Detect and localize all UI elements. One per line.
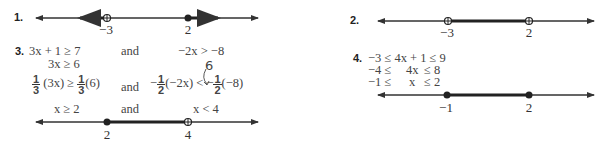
tick-label: −3 bbox=[432, 25, 462, 41]
step-line: x bbox=[409, 75, 415, 90]
problem-number-2: 2. bbox=[350, 14, 359, 26]
connector: and bbox=[121, 102, 139, 117]
number-line-3 bbox=[36, 119, 258, 126]
problem-number-3: 3. bbox=[15, 45, 24, 57]
tick-label: 2 bbox=[514, 100, 544, 116]
step-line: 3x ≥ 6 bbox=[48, 57, 80, 72]
problem-number-4: 4. bbox=[353, 52, 362, 64]
tick-label: 4 bbox=[173, 127, 203, 142]
handwritten-note: 6 bbox=[205, 58, 213, 73]
step-line: −1 ≤ bbox=[368, 75, 391, 90]
step-line: x < 4 bbox=[193, 102, 219, 117]
number-line-4 bbox=[378, 92, 594, 99]
tick-label: 2 bbox=[92, 127, 122, 142]
step-line: ≤ 2 bbox=[424, 75, 440, 90]
fraction-step-right: −12(−2x) < −12(−8) bbox=[150, 74, 243, 95]
tick-label: −1 bbox=[431, 100, 461, 116]
connector: and bbox=[121, 80, 139, 95]
tick-label: 2 bbox=[514, 25, 544, 41]
tick-label: 2 bbox=[173, 22, 203, 38]
connector: and bbox=[121, 44, 139, 59]
tick-label: −3 bbox=[91, 22, 121, 38]
number-lines bbox=[0, 0, 596, 142]
problem-number-1: 1. bbox=[14, 11, 23, 23]
fraction-step-left: 13 (3x) ≥ 13(6) bbox=[32, 74, 100, 95]
number-line-2 bbox=[378, 18, 594, 25]
step-line: x ≥ 2 bbox=[54, 102, 80, 117]
step-line: −2x > −8 bbox=[178, 44, 224, 59]
number-line-1 bbox=[36, 15, 258, 22]
